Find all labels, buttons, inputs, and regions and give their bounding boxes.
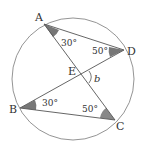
point-label-d: D: [127, 45, 136, 58]
angle-label-a: 30°: [61, 38, 77, 48]
point-label-b: B: [9, 103, 17, 116]
circle-diagram: A D B C E 30° 50° 30° 50° b: [0, 0, 148, 158]
point-label-a: A: [34, 11, 44, 24]
point-label-e: E: [68, 65, 76, 78]
angle-label-b: 30°: [42, 98, 58, 108]
segment-bd: [20, 50, 124, 108]
angle-d-wedge: [109, 47, 124, 57]
angle-b-arc: [89, 71, 91, 83]
angle-label-c: 50°: [82, 104, 98, 114]
point-label-c: C: [116, 120, 124, 133]
segment-bc: [20, 108, 115, 120]
variable-label-b: b: [94, 73, 100, 84]
angle-a-wedge: [44, 24, 59, 37]
segment-ad: [44, 24, 124, 50]
angle-label-d: 50°: [92, 46, 108, 56]
